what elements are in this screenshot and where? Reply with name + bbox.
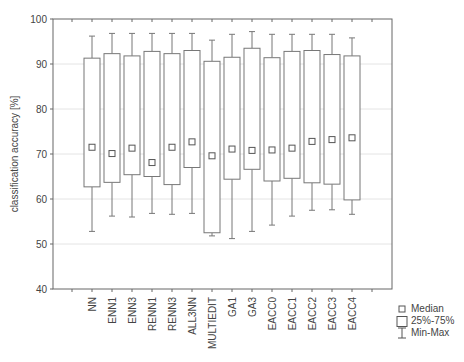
x-tick-label: ENN1 bbox=[107, 297, 118, 324]
y-tick-label: 60 bbox=[36, 194, 48, 205]
iqr-box bbox=[324, 55, 340, 185]
iqr-box bbox=[264, 58, 280, 181]
median-marker bbox=[229, 146, 235, 152]
y-tick-label: 70 bbox=[36, 149, 48, 160]
iqr-box bbox=[304, 51, 320, 183]
median-marker bbox=[169, 144, 175, 150]
y-axis-label: classification accuracy [%] bbox=[9, 95, 20, 212]
median-marker bbox=[309, 138, 315, 144]
y-tick-label: 80 bbox=[36, 104, 48, 115]
x-tick-label: EACC1 bbox=[287, 297, 298, 331]
legend-iqr: 25%-75% bbox=[396, 315, 454, 327]
legend-range-label: Min-Max bbox=[411, 327, 449, 339]
x-tick-label: ENN3 bbox=[127, 297, 138, 324]
median-marker bbox=[289, 145, 295, 151]
median-marker bbox=[249, 147, 255, 153]
median-marker bbox=[89, 144, 95, 150]
chart-legend: Median 25%-75% Min-Max bbox=[396, 303, 454, 339]
x-tick-label: EACC0 bbox=[267, 297, 278, 331]
median-marker bbox=[329, 137, 335, 143]
x-tick-label: ALL3NN bbox=[187, 297, 198, 335]
iqr-box bbox=[184, 51, 200, 168]
legend-median-label: Median bbox=[411, 303, 444, 315]
x-tick-label: EACC3 bbox=[327, 297, 338, 331]
x-tick-label: GA3 bbox=[247, 297, 258, 317]
x-tick-label: EACC2 bbox=[307, 297, 318, 331]
median-marker bbox=[109, 151, 115, 157]
iqr-box bbox=[144, 51, 160, 176]
iqr-box bbox=[284, 51, 300, 178]
x-tick-label: MULTIEDIT bbox=[207, 297, 218, 349]
iqr-box bbox=[224, 57, 240, 179]
x-tick-label: NN bbox=[87, 297, 98, 311]
x-tick-label: GA1 bbox=[227, 297, 238, 317]
x-tick-label: RENN3 bbox=[167, 297, 178, 331]
legend-median: Median bbox=[396, 303, 454, 315]
box-plot-chart: 405060708090100classification accuracy [… bbox=[0, 0, 464, 362]
iqr-box bbox=[344, 56, 360, 200]
median-marker bbox=[149, 160, 155, 166]
iqr-box bbox=[124, 56, 140, 175]
median-marker bbox=[209, 153, 215, 159]
median-marker-icon bbox=[396, 305, 408, 313]
median-marker bbox=[349, 135, 355, 141]
y-tick-label: 100 bbox=[30, 14, 47, 25]
whisker-icon bbox=[396, 327, 408, 339]
iqr-box bbox=[84, 58, 100, 187]
legend-range: Min-Max bbox=[396, 327, 454, 339]
iqr-box bbox=[204, 61, 220, 232]
median-marker bbox=[129, 145, 135, 151]
median-marker bbox=[189, 139, 195, 145]
y-tick-label: 90 bbox=[36, 59, 48, 70]
x-tick-label: EACC4 bbox=[347, 297, 358, 331]
x-tick-label: RENN1 bbox=[147, 297, 158, 331]
legend-iqr-label: 25%-75% bbox=[411, 315, 454, 327]
y-tick-label: 40 bbox=[36, 284, 48, 295]
box-icon bbox=[396, 316, 408, 327]
iqr-box bbox=[164, 54, 180, 185]
median-marker bbox=[269, 147, 275, 153]
y-tick-label: 50 bbox=[36, 239, 48, 250]
iqr-box bbox=[104, 54, 120, 183]
